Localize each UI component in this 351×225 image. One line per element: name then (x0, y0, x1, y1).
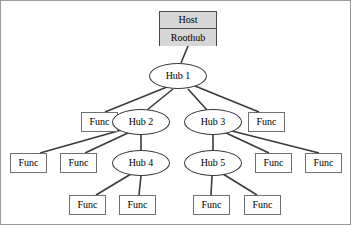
edge-hub5-to-func_r4_c (211, 176, 212, 195)
node-func_r3_d[interactable]: Func (305, 153, 342, 173)
edge-hub4-to-func_r4_b (139, 176, 141, 195)
node-label-roothub: Roothub (160, 29, 216, 46)
node-hub1[interactable]: Hub 1 (149, 63, 207, 89)
node-label-hub3: Hub 3 (201, 117, 226, 127)
node-label-hub5: Hub 5 (201, 158, 226, 168)
node-label-func_r3_d: Func (314, 158, 334, 168)
edge-hub2-to-func_r3_b (85, 132, 130, 153)
edge-hub5-to-func_r4_d (223, 174, 257, 195)
node-label-func_r3_b: Func (69, 158, 89, 168)
edge-hub1-to-hub3 (188, 89, 207, 110)
node-label-func_r4_d: Func (253, 200, 273, 210)
node-label-hub2: Hub 2 (129, 117, 154, 127)
node-func_r3_a[interactable]: Func (10, 153, 47, 173)
node-label-host: Host (160, 12, 216, 29)
node-label-func_r2_l: Func (90, 117, 110, 127)
node-label-func_r2_r: Func (257, 117, 277, 127)
node-hub2[interactable]: Hub 2 (112, 109, 170, 135)
node-label-func_r3_c: Func (264, 158, 284, 168)
node-func_r4_c[interactable]: Func (193, 195, 230, 215)
edge-hub4-to-func_r4_a (96, 174, 131, 195)
node-hub4[interactable]: Hub 4 (112, 150, 170, 176)
edge-hub3-to-func_r3_d (228, 130, 319, 153)
node-hub3[interactable]: Hub 3 (184, 109, 242, 135)
node-label-func_r3_a: Func (19, 158, 39, 168)
node-host[interactable]: HostRoothub (159, 11, 217, 46)
node-func_r4_d[interactable]: Func (244, 195, 281, 215)
node-func_r2_r[interactable]: Func (248, 112, 285, 132)
node-label-hub1: Hub 1 (166, 71, 191, 81)
node-label-hub4: Hub 4 (129, 158, 154, 168)
edge-host-to-hub1 (181, 46, 188, 63)
node-label-func_r4_b: Func (128, 200, 148, 210)
node-hub5[interactable]: Hub 5 (184, 150, 242, 176)
node-label-func_r4_a: Func (78, 200, 98, 210)
node-label-func_r4_c: Func (202, 200, 222, 210)
node-func_r4_a[interactable]: Func (69, 195, 106, 215)
topology-diagram: HostRoothubHub 1FuncHub 2Hub 3FuncFuncFu… (0, 0, 351, 225)
node-func_r3_c[interactable]: Func (255, 153, 292, 173)
node-func_r4_b[interactable]: Func (119, 195, 156, 215)
node-func_r3_b[interactable]: Func (60, 153, 97, 173)
edge-hub1-to-hub2 (147, 89, 173, 110)
